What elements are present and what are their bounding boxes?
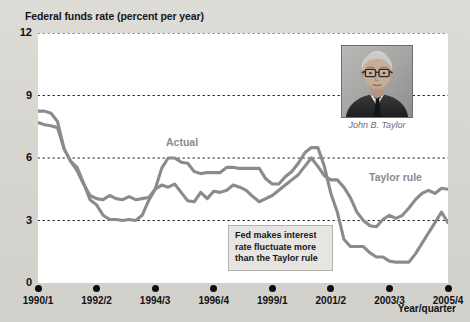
y-tick-label: 9 xyxy=(2,90,32,101)
annotation-line-3: than the Taylor rule xyxy=(235,253,327,265)
x-tick-dot xyxy=(327,285,334,292)
x-tick-label: 1990/1 xyxy=(23,295,54,306)
portrait-block: John B. Taylor xyxy=(341,45,413,130)
series-label-actual: Actual xyxy=(166,136,198,148)
page-title: Federal funds rate (percent per year) xyxy=(25,10,204,22)
x-axis-title: Year/quarter xyxy=(398,303,456,314)
x-tick-dot xyxy=(93,285,100,292)
x-tick-dot xyxy=(445,285,452,292)
x-tick-dot xyxy=(152,285,159,292)
x-tick-label: 1996/4 xyxy=(198,295,229,306)
x-tick-dot xyxy=(210,285,217,292)
y-tick-label: 3 xyxy=(2,215,32,226)
x-tick-dot xyxy=(35,285,42,292)
x-tick-label: 1992/2 xyxy=(81,295,112,306)
y-tick-label: 6 xyxy=(2,152,32,163)
x-tick-dot xyxy=(269,285,276,292)
series-label-taylor: Taylor rule xyxy=(369,171,422,183)
x-tick-dot xyxy=(386,285,393,292)
y-tick-label: 12 xyxy=(2,27,32,38)
annotation-line-2: rate fluctuate more xyxy=(235,242,327,254)
x-tick-label: 2001/2 xyxy=(316,295,347,306)
chart-figure: Federal funds rate (percent per year) 03… xyxy=(0,0,470,322)
y-tick-label: 0 xyxy=(2,277,32,288)
annotation-line-1: Fed makes interest xyxy=(235,230,327,242)
portrait-caption: John B. Taylor xyxy=(341,120,413,130)
portrait-photo xyxy=(341,45,413,118)
x-tick-label: 1994/3 xyxy=(140,295,171,306)
annotation-callout: Fed makes interest rate fluctuate more t… xyxy=(228,225,333,271)
x-tick-label: 1999/1 xyxy=(257,295,288,306)
